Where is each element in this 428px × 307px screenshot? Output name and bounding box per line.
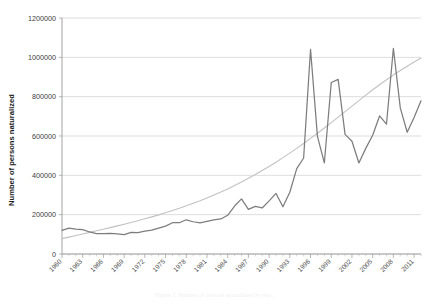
x-tick-label: 1978: [172, 258, 188, 274]
x-tick-label: 1990: [254, 258, 270, 274]
x-tick-label: 1963: [68, 258, 84, 274]
y-axis-tick-labels: 020000040000060000080000010000001200000: [28, 14, 56, 259]
y-axis-title: Number of persons naturalized: [7, 94, 16, 206]
x-tick-label: 2002: [337, 258, 353, 274]
chart-container: 020000040000060000080000010000001200000 …: [0, 0, 428, 307]
x-tick-label: 1972: [130, 258, 146, 274]
naturalization-line-chart: 020000040000060000080000010000001200000 …: [0, 0, 428, 307]
x-tick-label: 1975: [151, 258, 167, 274]
x-tick-label: 1987: [234, 258, 250, 274]
y-tick-label: 800000: [32, 92, 56, 101]
x-tick-label: 1996: [296, 258, 312, 274]
data-line-series: [62, 48, 421, 234]
x-axis-tick-labels: 1960196319661969197219751978198119841987…: [47, 258, 415, 274]
y-tick-label: 400000: [32, 171, 56, 180]
y-tick-label: 1200000: [28, 14, 56, 23]
gridlines: [62, 18, 421, 254]
trend-line-series: [62, 58, 421, 239]
y-tick-label: 0: [52, 250, 56, 259]
x-tick-label: 1969: [110, 258, 126, 274]
x-tick-label: 2005: [358, 258, 374, 274]
x-tick-label: 1960: [47, 258, 63, 274]
series-line: [62, 48, 421, 234]
y-tick-label: 200000: [32, 210, 56, 219]
x-axis: [62, 254, 421, 258]
x-tick-label: 2011: [400, 258, 415, 273]
x-tick-label: 1999: [317, 258, 333, 274]
x-tick-label: 2008: [379, 258, 395, 274]
y-axis: [59, 18, 62, 254]
y-tick-label: 600000: [32, 132, 56, 141]
x-tick-label: 1984: [213, 258, 229, 274]
x-tick-label: 1981: [192, 258, 208, 274]
trend-line: [62, 58, 421, 239]
y-tick-label: 1000000: [28, 53, 56, 62]
x-tick-label: 1966: [89, 258, 105, 274]
x-tick-label: 1993: [275, 258, 291, 274]
